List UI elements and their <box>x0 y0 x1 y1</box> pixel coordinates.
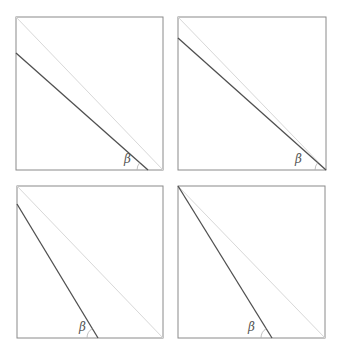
reference-diagonal <box>178 186 325 338</box>
reference-diagonal <box>16 17 163 170</box>
angle-label-beta: β <box>78 320 86 334</box>
angle-arc-icon <box>137 163 140 170</box>
panel-top-right: β <box>178 17 326 170</box>
angle-arc-icon <box>87 329 92 338</box>
figure: β β β β <box>0 0 342 353</box>
angle-arc-icon <box>315 163 318 170</box>
reference-diagonal <box>178 17 326 170</box>
four-panel-angle-diagram: β β β β <box>0 0 342 353</box>
panel-bottom-left: β <box>17 186 163 338</box>
panel-top-left: β <box>16 17 163 170</box>
reference-diagonal <box>17 186 163 338</box>
angle-label-beta: β <box>247 320 255 334</box>
angle-label-beta: β <box>123 152 131 166</box>
slanted-line <box>178 38 326 170</box>
panel-bottom-right: β <box>178 186 325 338</box>
angle-arc-icon <box>261 329 266 338</box>
angle-label-beta: β <box>294 152 302 166</box>
slanted-line <box>178 186 272 338</box>
slanted-line <box>17 204 98 338</box>
